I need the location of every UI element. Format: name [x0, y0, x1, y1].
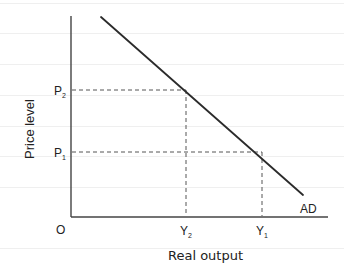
- price-label-p2: P2: [54, 84, 66, 99]
- ad-curve: [101, 17, 303, 195]
- curve-label-ad: AD: [300, 202, 317, 216]
- guide-lines: [72, 90, 262, 216]
- y-axis-title: Price level: [22, 99, 37, 159]
- output-label-y1: Y1: [256, 224, 268, 239]
- ruled-lines: [0, 4, 344, 249]
- ad-diagram: AD O P2 P1 Y2 Y1 Real output Price level: [0, 0, 344, 276]
- origin-label: O: [56, 223, 65, 237]
- output-label-y2: Y2: [180, 224, 192, 239]
- x-axis-title: Real output: [168, 248, 243, 263]
- price-label-p1: P1: [54, 146, 66, 161]
